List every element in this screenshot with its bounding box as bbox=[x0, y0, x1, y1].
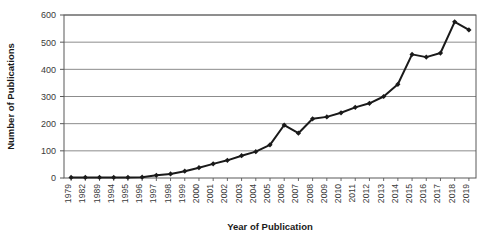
x-tick-label: 2010 bbox=[333, 184, 343, 203]
y-tick-label: 300 bbox=[41, 92, 56, 102]
x-tick-label: 2018 bbox=[447, 184, 457, 203]
x-tick-label: 1998 bbox=[163, 184, 173, 203]
x-tick-label: 1997 bbox=[148, 184, 158, 203]
x-tick-label: 2019 bbox=[461, 184, 471, 203]
x-tick-label: 2000 bbox=[191, 184, 201, 203]
x-tick-label: 2012 bbox=[361, 184, 371, 203]
x-tick-label: 2013 bbox=[376, 184, 386, 203]
x-tick-label: 1979 bbox=[63, 184, 73, 203]
y-tick-label: 100 bbox=[41, 146, 56, 156]
x-tick-label: 1995 bbox=[120, 184, 130, 203]
x-tick-label: 1999 bbox=[177, 184, 187, 203]
x-tick-label: 2005 bbox=[262, 184, 272, 203]
y-tick-label: 600 bbox=[41, 10, 56, 20]
x-tick-label: 2004 bbox=[248, 184, 258, 203]
x-tick-label: 1994 bbox=[106, 184, 116, 203]
x-tick-label: 2003 bbox=[234, 184, 244, 203]
x-axis-title: Year of Publication bbox=[227, 221, 313, 232]
x-tick-label: 2014 bbox=[390, 184, 400, 203]
x-tick-label: 2002 bbox=[219, 184, 229, 203]
x-tick-label: 2006 bbox=[276, 184, 286, 203]
x-tick-label: 1982 bbox=[77, 184, 87, 203]
x-tick-label: 2015 bbox=[404, 184, 414, 203]
x-tick-label: 1996 bbox=[134, 184, 144, 203]
x-tick-label: 2017 bbox=[432, 184, 442, 203]
chart-canvas: 0100200300400500600Number of Publication… bbox=[0, 0, 492, 235]
x-tick-label: 2009 bbox=[319, 184, 329, 203]
x-tick-label: 2001 bbox=[205, 184, 215, 203]
y-axis-title: Number of Publications bbox=[5, 43, 16, 150]
y-tick-label: 500 bbox=[41, 38, 56, 48]
publications-line-chart: 0100200300400500600Number of Publication… bbox=[0, 0, 492, 235]
x-tick-label: 2011 bbox=[347, 184, 357, 203]
y-tick-label: 0 bbox=[51, 173, 56, 183]
x-tick-label: 1989 bbox=[92, 184, 102, 203]
y-tick-label: 200 bbox=[41, 119, 56, 129]
x-tick-label: 2008 bbox=[305, 184, 315, 203]
x-tick-label: 2016 bbox=[418, 184, 428, 203]
x-tick-label: 2007 bbox=[290, 184, 300, 203]
y-tick-label: 400 bbox=[41, 65, 56, 75]
